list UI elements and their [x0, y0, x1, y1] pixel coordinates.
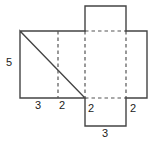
dimension-label-bottom-right: 2	[130, 103, 136, 114]
top-flap-outline	[85, 6, 126, 31]
dimension-label-left-height: 5	[6, 57, 12, 68]
dimension-label-bottom-flap-left: 2	[88, 103, 94, 114]
dimension-label-bottom-flap-width: 3	[102, 128, 108, 139]
dimension-label-bottom-second: 2	[59, 100, 65, 111]
net-diagram-svg	[0, 0, 154, 141]
net-diagram-figure: 5 3 2 2 2 3	[0, 0, 154, 141]
dimension-label-bottom-first: 3	[35, 100, 41, 111]
main-band-outline	[20, 31, 147, 98]
